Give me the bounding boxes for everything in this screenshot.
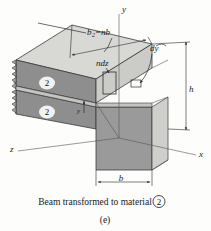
element-width-label: ndz: [96, 58, 109, 68]
upper-material-number: 2: [45, 78, 50, 88]
upper-flange-break-line: [12, 60, 17, 89]
bottom-width-dimension: [96, 170, 152, 186]
height-ext-bottom: [168, 129, 190, 130]
element-rectangle-secondary: [131, 80, 141, 87]
lower-material-number: 2: [45, 107, 50, 117]
material-tag-upper: 2: [39, 77, 55, 90]
caption-material-number: 2: [157, 197, 162, 207]
x-axis-label: x: [198, 149, 203, 159]
material-tag-lower: 2: [39, 106, 55, 119]
bottom-width-label: b: [119, 173, 124, 183]
height-label: h: [189, 84, 194, 94]
caption-part-label: (e): [100, 215, 111, 226]
beam-transformed-section-diagram: y x z b 2 =nb ndz dy: [0, 0, 211, 231]
caption-main-text: Beam transformed to material: [38, 197, 152, 207]
projection-line-flange: [152, 60, 168, 68]
y-axis-label: y: [121, 4, 126, 14]
stem-top-face: [96, 103, 152, 107]
figure-container: y x z b 2 =nb ndz dy: [0, 0, 211, 231]
element-height-label: dy: [150, 43, 159, 53]
stem-right-face: [152, 97, 168, 170]
beam-stem-solid: [96, 97, 168, 170]
top-width-label-group: b 2 =nb: [87, 27, 111, 38]
z-axis-label: z: [9, 144, 14, 154]
figure-caption: Beam transformed to material 2 (e): [38, 196, 165, 227]
lower-flange-break-line: [12, 90, 17, 114]
top-width-label-equals: =nb: [95, 27, 111, 37]
stem-front-face: [96, 107, 152, 170]
